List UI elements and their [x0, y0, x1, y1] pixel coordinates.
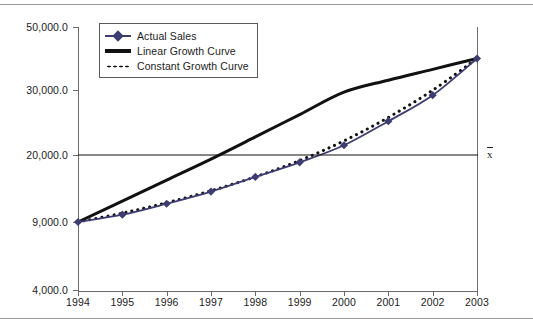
chart-legend: Actual Sales Linear Growth Curve Constan…: [99, 23, 258, 78]
diamond-line-marker-icon: [105, 30, 131, 42]
data-point-marker-1996: [163, 200, 171, 208]
dotted-line-marker-icon: [105, 60, 131, 72]
legend-entry-linear-growth-curve: Linear Growth Curve: [105, 43, 249, 58]
series-line-linear-growth-curve: [78, 59, 477, 223]
legend-entry-constant-growth-curve: Constant Growth Curve: [105, 58, 249, 73]
data-point-marker-1998: [251, 173, 259, 181]
series-line-actual-sales: [78, 59, 477, 223]
chart-series-canvas: [0, 0, 533, 329]
series-line-constant-growth-curve: [78, 59, 477, 223]
sales-growth-curve-figure: 50,000.0 30,000.0 20,000.0 9,000.0 4,000…: [0, 0, 533, 329]
data-point-marker-2001: [384, 117, 392, 125]
legend-label-constant-growth-curve: Constant Growth Curve: [137, 60, 249, 72]
thick-line-marker-icon: [105, 45, 131, 57]
legend-label-actual-sales: Actual Sales: [137, 30, 197, 42]
legend-label-linear-growth-curve: Linear Growth Curve: [137, 45, 236, 57]
data-point-marker-1999: [296, 158, 304, 166]
legend-entry-actual-sales: Actual Sales: [105, 28, 249, 43]
